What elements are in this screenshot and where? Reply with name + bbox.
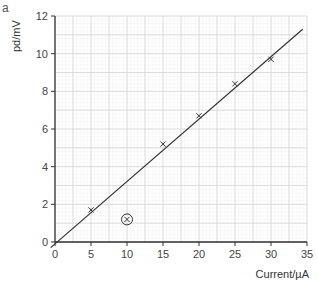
y-tick-label: 6 <box>42 123 48 135</box>
x-tick-label: 10 <box>121 248 133 260</box>
y-tick-label: 2 <box>42 198 48 210</box>
x-tick-label: 5 <box>88 248 94 260</box>
y-tick-label: 8 <box>42 85 48 97</box>
y-tick-label: 0 <box>42 236 48 248</box>
x-tick-label: 25 <box>229 248 241 260</box>
x-tick-label: 35 <box>301 248 313 260</box>
chart-plot-area: 05101520253035024681012 <box>0 0 317 284</box>
y-tick-label: 12 <box>36 10 48 22</box>
y-tick-label: 4 <box>42 161 48 173</box>
y-tick-label: 10 <box>36 48 48 60</box>
x-tick-label: 15 <box>157 248 169 260</box>
x-tick-label: 0 <box>52 248 58 260</box>
x-tick-label: 20 <box>193 248 205 260</box>
x-tick-label: 30 <box>265 248 277 260</box>
best-fit-line <box>51 29 303 247</box>
